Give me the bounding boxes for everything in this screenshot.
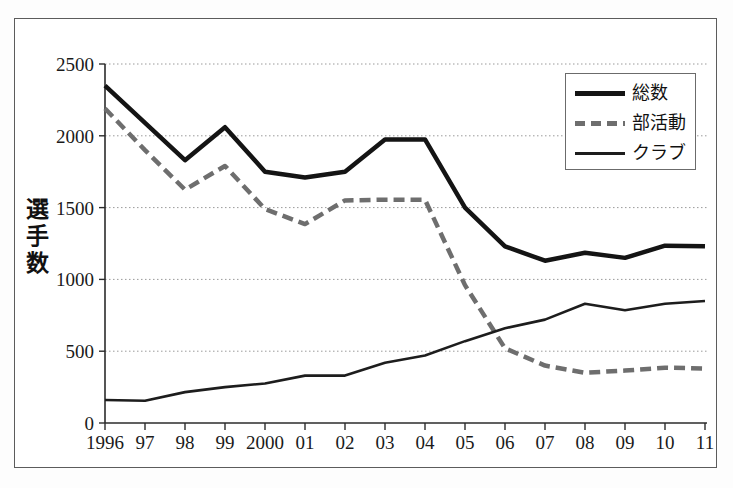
x-axis-tick-label: 98 bbox=[176, 432, 195, 453]
y-axis-tick-label: 1500 bbox=[56, 198, 94, 219]
y-axis-tick-label: 1000 bbox=[56, 269, 94, 290]
y-axis-tick-labels: 05001000150020002500 bbox=[56, 54, 105, 434]
legend-swatch-dashed-icon bbox=[575, 116, 625, 130]
x-axis-tick-label: 01 bbox=[296, 432, 315, 453]
x-axis-tick-label: 99 bbox=[216, 432, 235, 453]
x-axis-tick-label: 06 bbox=[496, 432, 515, 453]
x-axis-tick-label: 97 bbox=[136, 432, 155, 453]
legend-swatch-solid-thick-icon bbox=[575, 86, 625, 100]
legend-label-club: クラブ bbox=[632, 144, 686, 162]
x-axis-tick-label: 04 bbox=[416, 432, 436, 453]
x-axis-tick-label: 11 bbox=[696, 432, 714, 453]
legend-item-club: クラブ bbox=[566, 138, 697, 168]
x-axis-tick-label: 07 bbox=[536, 432, 555, 453]
y-axis-title-char-3: 数 bbox=[22, 250, 52, 277]
y-axis-tick-label: 2000 bbox=[56, 126, 94, 147]
legend: 総数 部活動 クラブ bbox=[565, 73, 696, 170]
x-axis-tick-label: 03 bbox=[376, 432, 395, 453]
y-axis-title-char-2: 手 bbox=[22, 223, 52, 250]
legend-label-bukatsu: 部活動 bbox=[632, 114, 686, 132]
y-axis-title: 選 手 数 bbox=[22, 196, 52, 277]
x-axis-tick-label: 1996 bbox=[86, 432, 124, 453]
x-axis-tick-label: 05 bbox=[456, 432, 475, 453]
x-axis-tick-labels: 199697989920000102030405060708091011 bbox=[86, 432, 714, 453]
x-axis-tick-label: 2000 bbox=[246, 432, 284, 453]
x-axis-tick-label: 10 bbox=[656, 432, 675, 453]
legend-swatch-solid-thin-icon bbox=[575, 146, 625, 160]
x-axis-tick-label: 09 bbox=[616, 432, 635, 453]
y-axis-tick-label: 2500 bbox=[56, 54, 94, 75]
legend-item-bukatsu: 部活動 bbox=[566, 108, 697, 138]
x-axis-tick-label: 08 bbox=[576, 432, 595, 453]
x-axis-tick-label: 02 bbox=[336, 432, 355, 453]
y-axis-tick-label: 500 bbox=[66, 341, 95, 362]
x-axis-ticks bbox=[105, 423, 705, 430]
legend-label-total: 総数 bbox=[632, 84, 668, 102]
figure-root: 05001000150020002500 1996979899200001020… bbox=[0, 0, 733, 488]
y-axis-tick-label: 0 bbox=[85, 413, 95, 434]
legend-item-total: 総数 bbox=[566, 78, 697, 108]
y-axis-title-char-1: 選 bbox=[22, 196, 52, 223]
